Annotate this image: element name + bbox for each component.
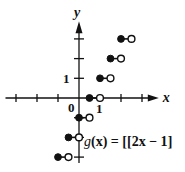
- x-axis-arrowhead-icon: [148, 95, 159, 102]
- open-endpoint-icon: [118, 55, 125, 62]
- open-endpoint-icon: [65, 154, 72, 161]
- origin-label: 0: [68, 100, 75, 115]
- function-label: g(x) = [[2x − 1]: [84, 134, 172, 150]
- x-tick-label-1: 1: [96, 101, 103, 116]
- function-close-bracket: ]: [168, 134, 173, 149]
- open-endpoint-icon: [128, 36, 135, 43]
- closed-endpoint-icon: [65, 134, 72, 141]
- closed-endpoint-icon: [118, 36, 125, 43]
- y-tick-label-1: 1: [63, 71, 70, 86]
- y-axis-arrowhead-icon: [76, 21, 83, 33]
- open-endpoint-icon: [86, 114, 93, 121]
- closed-endpoint-icon: [76, 114, 83, 121]
- step-segment: [76, 114, 93, 121]
- open-endpoint-icon: [107, 75, 114, 82]
- step-segment: [97, 75, 114, 82]
- step-function-graph: y x 0 1 1 g(x) = [[2x − 1]: [0, 0, 185, 172]
- closed-endpoint-icon: [107, 55, 114, 62]
- step-segment: [55, 154, 72, 161]
- function-arg: (x): [91, 134, 108, 150]
- open-endpoint-icon: [76, 134, 83, 141]
- closed-endpoint-icon: [55, 154, 62, 161]
- step-segment: [118, 36, 135, 43]
- closed-endpoint-icon: [86, 95, 93, 102]
- function-name: g: [84, 134, 91, 149]
- step-segment: [65, 134, 82, 141]
- closed-endpoint-icon: [97, 75, 104, 82]
- function-open-bracket: [[: [122, 134, 132, 149]
- function-expression: 2x − 1: [132, 134, 168, 149]
- x-axis-label: x: [162, 90, 170, 105]
- step-segment: [107, 55, 124, 62]
- function-equals: =: [107, 134, 122, 149]
- y-axis-label: y: [72, 5, 81, 20]
